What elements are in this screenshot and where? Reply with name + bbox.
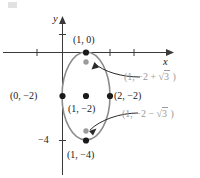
point-center <box>83 93 89 99</box>
sqrt-icon: √3 <box>159 72 171 82</box>
point-right-vertex <box>107 93 113 99</box>
point-bottom-vertex <box>83 137 89 143</box>
annotation-lower-focus-prefix: (1, −2 − <box>122 108 157 119</box>
label-left-vertex: (0, −2) <box>10 91 37 101</box>
label-center: (1, −2) <box>68 104 95 114</box>
annotation-upper-focus: (1, −2 + √3 ) <box>124 72 176 82</box>
label-right-vertex: (2, −2) <box>114 91 141 101</box>
y-tick-label-minus-four: −4 <box>38 135 49 145</box>
annotation-upper-focus-prefix: (1, −2 + <box>124 71 159 82</box>
arrow-right-icon <box>166 49 174 56</box>
ellipse-figure: y x −4 (1, 0) (0, −2) (1, −2) (2, −2) (1… <box>0 0 200 178</box>
point-left-vertex <box>59 93 65 99</box>
annotation-lower-focus: (1, −2 − √3 ) <box>122 109 174 119</box>
graph-canvas <box>0 0 200 178</box>
point-lower-focus <box>83 128 88 133</box>
y-axis-label: y <box>53 14 58 25</box>
x-axis-label: x <box>163 57 168 68</box>
arrow-up-icon <box>59 16 66 24</box>
annotation-lower-focus-radicand: 3 <box>162 107 168 119</box>
annotation-upper-focus-suffix: ) <box>170 71 176 82</box>
point-upper-focus <box>83 59 88 64</box>
annotation-upper-focus-radicand: 3 <box>164 70 170 82</box>
sqrt-icon: √3 <box>157 109 169 119</box>
annotation-lower-focus-suffix: ) <box>168 108 174 119</box>
label-bottom-vertex: (1, −4) <box>67 150 94 160</box>
label-top-vertex: (1, 0) <box>73 35 95 45</box>
point-top-vertex <box>83 49 89 55</box>
